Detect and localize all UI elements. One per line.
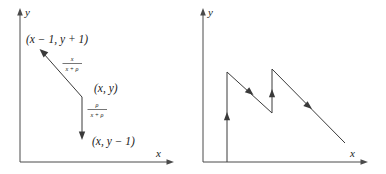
node-label-down: (x, y − 1) [92, 135, 135, 148]
right-x-axis-label: x [349, 147, 355, 159]
edge-down-arrow [79, 97, 85, 140]
right-panel-sample-path: y x [200, 6, 368, 165]
edge-up-left-arrow [40, 49, 83, 97]
edge-up-left-probability-denominator: x + ρ [65, 65, 79, 72]
right-y-axis [200, 8, 206, 162]
sample-path-rise-1 [224, 72, 230, 162]
right-x-axis [203, 159, 368, 165]
sample-path-rise-2 [269, 69, 275, 113]
edge-down-probability: ρ x + ρ [88, 101, 108, 118]
right-y-axis-label: y [207, 6, 213, 18]
node-label-current: (x, y) [94, 82, 118, 95]
figure-root: y x (x − 1, y + 1) (x, y) (x, y − 1) x x… [0, 0, 386, 174]
left-y-axis-label: y [24, 6, 30, 18]
left-x-axis-label: x [155, 147, 161, 159]
node-label-up-left: (x − 1, y + 1) [26, 33, 88, 46]
edge-down-probability-numerator: ρ [95, 101, 99, 108]
sample-path-fall-2 [272, 69, 345, 143]
edge-down-probability-denominator: x + ρ [90, 111, 104, 118]
sample-path-fall-1 [227, 72, 272, 113]
edge-up-left-probability-numerator: x [70, 55, 74, 62]
left-y-axis [17, 8, 23, 162]
left-x-axis [20, 159, 174, 165]
left-panel-transition-diagram: y x (x − 1, y + 1) (x, y) (x, y − 1) x x… [0, 0, 386, 174]
edge-up-left-probability: x x + ρ [63, 55, 83, 72]
